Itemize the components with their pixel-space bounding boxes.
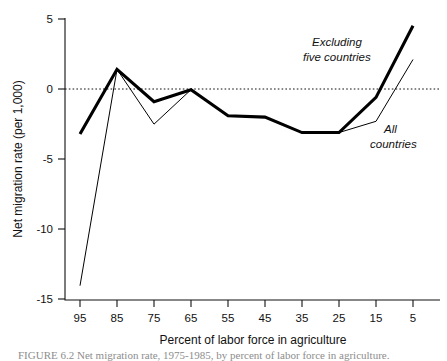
series-label-all-line1: All (383, 123, 397, 135)
y-axis-title: Net migration rate (per 1,000) (11, 80, 25, 237)
figure-caption: FIGURE 6.2 Net migration rate, 1975-1985… (18, 349, 438, 361)
y-tick-label: -5 (43, 153, 53, 165)
x-tick-label: 15 (370, 312, 383, 324)
x-tick-label: 5 (410, 312, 416, 324)
x-tick-label: 65 (185, 312, 198, 324)
x-tick-label: 45 (259, 312, 272, 324)
y-tick-label: -10 (36, 223, 53, 235)
x-tick-label: 35 (296, 312, 309, 324)
series-label-all-line2: countries (370, 138, 417, 150)
x-axis-title: Percent of labor force in agriculture (160, 333, 347, 347)
x-tick-marks (80, 300, 413, 307)
x-tick-label: 95 (74, 312, 87, 324)
y-tick-label: 5 (47, 13, 53, 25)
x-tick-label: 55 (222, 312, 235, 324)
series-label-excluding-line1: Excluding (312, 36, 362, 48)
y-tick-label: -15 (36, 293, 53, 305)
y-tick-label: 0 (47, 83, 53, 95)
x-tick-label: 85 (111, 312, 124, 324)
series-label-excluding-line2: five countries (303, 51, 371, 63)
axis-frame (65, 18, 440, 300)
x-tick-label: 75 (148, 312, 161, 324)
series-line-excluding-five-countries (80, 26, 413, 134)
x-tick-label: 25 (333, 312, 346, 324)
series-line-all-countries (80, 59, 413, 285)
y-tick-marks (58, 19, 65, 299)
